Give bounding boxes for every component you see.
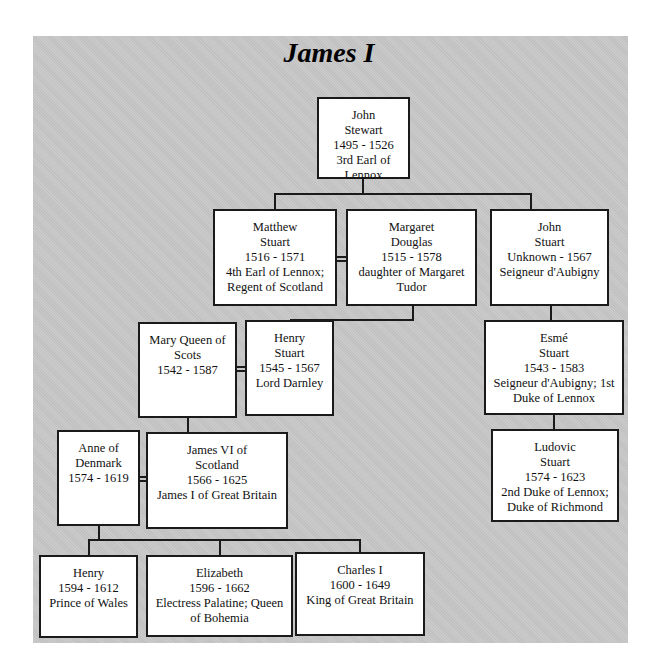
title-line: of Bohemia	[148, 611, 291, 626]
person-margaret-douglas: Margaret Douglas 1515 - 1578 daughter of…	[346, 209, 477, 306]
connector	[530, 193, 532, 210]
title-line: Seigneur d'Aubigny	[492, 265, 607, 280]
title-line: daughter of Margaret	[348, 265, 475, 280]
name-line: Stuart	[247, 346, 332, 361]
title-line: Electress Palatine; Queen	[148, 596, 291, 611]
title-line: King of Great Britain	[297, 593, 423, 608]
name-line: Charles I	[297, 563, 423, 578]
name-line: Stuart	[486, 346, 622, 361]
name-line: Henry	[41, 566, 136, 581]
name-line: Douglas	[348, 235, 475, 250]
connector	[88, 539, 90, 556]
title-line: Seigneur d'Aubigny; 1st	[486, 376, 622, 391]
name-line: Stewart	[319, 123, 408, 138]
name-line: James VI of	[148, 443, 286, 458]
name-line: John	[492, 220, 607, 235]
dates-line: 1515 - 1578	[348, 250, 475, 265]
dates-line: 1574 - 1619	[59, 471, 138, 486]
title-line: Regent of Scotland	[215, 280, 335, 295]
person-henry-stuart: Henry Stuart 1545 - 1567 Lord Darnley	[245, 320, 334, 416]
dates-line: 1596 - 1662	[148, 581, 291, 596]
title-line: 3rd Earl of Lennox	[319, 153, 408, 183]
name-line: Stuart	[493, 455, 617, 470]
name-line: Scotland	[148, 458, 286, 473]
person-john-stuart: John Stuart Unknown - 1567 Seigneur d'Au…	[490, 209, 609, 306]
person-anne-of-denmark: Anne of Denmark 1574 - 1619	[57, 430, 140, 526]
person-james-vi: James VI of Scotland 1566 - 1625 James I…	[146, 432, 288, 529]
name-line: Scots	[140, 348, 235, 363]
dates-line: 1574 - 1623	[493, 470, 617, 485]
title-line: James I of Great Britain	[148, 488, 286, 503]
dates-line: 1566 - 1625	[148, 473, 286, 488]
name-line: Esmé	[486, 331, 622, 346]
name-line: Matthew	[215, 220, 335, 235]
title-line: Duke of Lennox	[486, 391, 622, 406]
dates-line: 1516 - 1571	[215, 250, 335, 265]
person-mary-queen-of-scots: Mary Queen of Scots 1542 - 1587	[138, 322, 237, 418]
name-line: Henry	[247, 331, 332, 346]
diagram-title: James I	[0, 39, 658, 67]
dates-line: 1543 - 1583	[486, 361, 622, 376]
title-line: Duke of Richmond	[493, 500, 617, 515]
name-line: Stuart	[215, 235, 335, 250]
connector	[187, 417, 189, 433]
connector	[219, 539, 221, 556]
connector	[550, 305, 552, 321]
name-line: Denmark	[59, 456, 138, 471]
name-line: Stuart	[492, 235, 607, 250]
person-elizabeth: Elizabeth 1596 - 1662 Electress Palatine…	[146, 555, 293, 637]
dates-line: 1542 - 1587	[140, 363, 235, 378]
name-line: Ludovic	[493, 440, 617, 455]
title-line: Lord Darnley	[247, 376, 332, 391]
title-line: Prince of Wales	[41, 596, 136, 611]
person-ludovic-stuart: Ludovic Stuart 1574 - 1623 2nd Duke of L…	[491, 429, 619, 522]
connector	[274, 193, 276, 210]
dates-line: 1495 - 1526	[319, 138, 408, 153]
connector	[412, 305, 414, 320]
connector	[88, 539, 361, 541]
name-line: Elizabeth	[148, 566, 291, 581]
dates-line: Unknown - 1567	[492, 250, 607, 265]
marriage-connector	[336, 256, 346, 262]
name-line: Anne of	[59, 441, 138, 456]
name-line: Margaret	[348, 220, 475, 235]
dates-line: 1600 - 1649	[297, 578, 423, 593]
person-matthew-stuart: Matthew Stuart 1516 - 1571 4th Earl of L…	[213, 209, 337, 306]
dates-line: 1545 - 1567	[247, 361, 332, 376]
connector	[274, 193, 532, 195]
title-line: Tudor	[348, 280, 475, 295]
connector	[359, 539, 361, 553]
title-line: 4th Earl of Lennox;	[215, 265, 335, 280]
person-esme-stuart: Esmé Stuart 1543 - 1583 Seigneur d'Aubig…	[484, 320, 624, 415]
title-line: 2nd Duke of Lennox;	[493, 485, 617, 500]
person-henry-prince-of-wales: Henry 1594 - 1612 Prince of Wales	[39, 555, 138, 638]
name-line: Mary Queen of	[140, 333, 235, 348]
person-charles-i: Charles I 1600 - 1649 King of Great Brit…	[295, 552, 425, 636]
connector	[553, 413, 555, 430]
dates-line: 1594 - 1612	[41, 581, 136, 596]
person-john-stewart: John Stewart 1495 - 1526 3rd Earl of Len…	[317, 97, 410, 179]
name-line: John	[319, 108, 408, 123]
